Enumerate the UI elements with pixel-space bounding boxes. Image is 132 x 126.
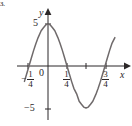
x-tick-label-one-quarter: 1 4 <box>62 70 71 89</box>
x-tick-label-three-quarters: 3 4 <box>101 70 110 89</box>
y-tick-label-minus-5: −5 <box>24 103 35 113</box>
origin-label: 0 <box>39 68 44 78</box>
x-tick-label-neg-one-quarter-denominator: 4 <box>26 80 35 89</box>
y-axis-label: y <box>39 8 43 18</box>
x-tick-label-neg-one-quarter-numerator: 1 <box>26 70 35 79</box>
y-axis-arrowhead <box>45 8 52 15</box>
x-axis-arrowhead <box>124 63 131 70</box>
x-tick-label-one-quarter-numerator: 1 <box>62 70 71 79</box>
x-axis <box>17 63 131 70</box>
x-tick-label-neg-one-quarter-sign: − <box>21 74 26 83</box>
graph-plot <box>0 0 132 126</box>
x-tick-label-one-quarter-denominator: 4 <box>62 80 71 89</box>
x-axis-label: x <box>120 70 124 80</box>
x-tick-label-three-quarters-denominator: 4 <box>101 80 110 89</box>
x-tick-label-neg-one-quarter: − 1 4 <box>26 70 35 89</box>
x-tick-label-three-quarters-numerator: 3 <box>101 70 110 79</box>
y-tick-label-5: 5 <box>33 18 38 28</box>
figure-panel: 3. y x 0 5 −5 − <box>0 0 132 126</box>
